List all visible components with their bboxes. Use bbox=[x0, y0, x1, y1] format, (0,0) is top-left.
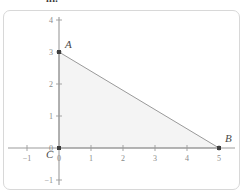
point-C[interactable] bbox=[57, 146, 61, 150]
x-tick-label-1: 1 bbox=[89, 154, 93, 163]
x-tick-label-5: 5 bbox=[217, 154, 221, 163]
point-A[interactable] bbox=[57, 50, 61, 54]
coordinate-plane-plot: −1012345−101234 ABC bbox=[4, 11, 239, 189]
point-label-B: B bbox=[225, 132, 232, 144]
y-tick-label--1: −1 bbox=[44, 176, 53, 185]
x-tick-label-2: 2 bbox=[121, 154, 125, 163]
x-tick-label-0: 0 bbox=[57, 154, 61, 163]
y-tick-label-2: 2 bbox=[49, 80, 53, 89]
y-tick-label-4: 4 bbox=[49, 16, 53, 25]
triangle-ABC bbox=[59, 52, 219, 148]
point-B[interactable] bbox=[217, 146, 221, 150]
figure-frame: −1012345−101234 ABC bbox=[3, 10, 240, 190]
caption-fragment: iii. bbox=[46, 0, 58, 4]
point-label-A: A bbox=[64, 38, 72, 50]
x-tick-label-4: 4 bbox=[185, 154, 189, 163]
point-label-C: C bbox=[46, 148, 54, 160]
x-tick-label--1: −1 bbox=[23, 154, 32, 163]
x-tick-label-3: 3 bbox=[153, 154, 157, 163]
y-tick-label-1: 1 bbox=[49, 112, 53, 121]
shapes-layer bbox=[59, 52, 219, 148]
y-tick-label-3: 3 bbox=[49, 48, 53, 57]
